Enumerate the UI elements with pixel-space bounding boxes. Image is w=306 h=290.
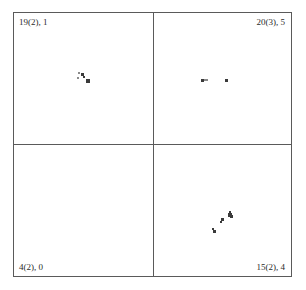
- data-point: [221, 218, 224, 221]
- data-point: [78, 72, 80, 74]
- panel-top-right[interactable]: 20(3), 5: [154, 13, 291, 144]
- data-point: [86, 79, 90, 83]
- panel-bottom-right-label: 15(2), 4: [257, 262, 286, 272]
- data-point: [206, 79, 208, 81]
- panel-top-right-label: 20(3), 5: [257, 17, 286, 27]
- panel-bottom-right[interactable]: 15(2), 4: [154, 145, 291, 276]
- panel-bottom-left-label: 4(2), 0: [19, 262, 43, 272]
- data-point: [220, 221, 222, 223]
- figure-canvas: 19(2), 1 20(3), 5 4(2), 0 15(2), 4: [0, 0, 306, 290]
- data-point: [230, 215, 233, 218]
- data-point: [77, 77, 79, 79]
- data-point: [213, 230, 216, 233]
- panel-bottom-left[interactable]: 4(2), 0: [14, 145, 153, 276]
- panel-grid-frame: 19(2), 1 20(3), 5 4(2), 0 15(2), 4: [13, 12, 292, 277]
- data-point: [225, 79, 228, 82]
- panel-top-left-label: 19(2), 1: [19, 17, 48, 27]
- panel-top-left[interactable]: 19(2), 1: [14, 13, 153, 144]
- data-point: [83, 76, 85, 78]
- data-point: [229, 211, 231, 213]
